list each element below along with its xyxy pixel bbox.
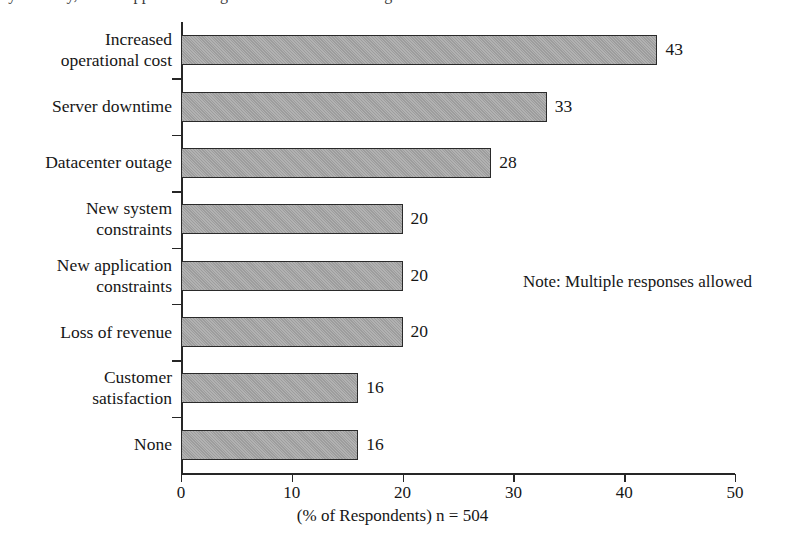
bar-chart: by industry, what happened during the la… (0, 0, 785, 535)
bar (181, 261, 403, 291)
y-axis-tick (172, 78, 181, 79)
bar-value-label: 20 (411, 208, 429, 229)
y-axis-line (181, 22, 183, 474)
x-axis-tick-label: 50 (713, 483, 757, 503)
bar-value-label: 20 (411, 265, 429, 286)
x-axis-tick-label: 0 (159, 483, 203, 503)
bar-value-label: 16 (366, 377, 384, 398)
bar-value-label: 28 (499, 152, 517, 173)
category-label: Customer satisfaction (0, 367, 172, 409)
bar (181, 373, 358, 403)
chart-note-annotation: Note: Multiple responses allowed (523, 272, 752, 292)
y-axis-tick (172, 304, 181, 305)
y-axis-tick (172, 417, 181, 418)
bar (181, 148, 491, 178)
category-label: Loss of revenue (0, 322, 172, 343)
x-axis-tick-label: 40 (602, 483, 646, 503)
category-label: New application constraints (0, 255, 172, 297)
x-axis-tick (292, 474, 293, 482)
x-axis-tick-label: 30 (491, 483, 535, 503)
bar (181, 430, 358, 460)
x-axis-line (181, 473, 735, 475)
bar-value-label: 20 (411, 321, 429, 342)
y-axis-tick (172, 135, 181, 136)
x-axis-tick (403, 474, 404, 482)
x-axis-tick (735, 474, 736, 482)
category-label: New system constraints (0, 198, 172, 240)
bar-value-label: 43 (665, 39, 683, 60)
bar (181, 35, 657, 65)
x-axis-tick (513, 474, 514, 482)
category-label: Server downtime (0, 96, 172, 117)
x-axis-tick (181, 474, 182, 482)
category-label: Increased operational cost (0, 29, 172, 71)
x-axis-tick (624, 474, 625, 482)
bar (181, 317, 403, 347)
x-axis-tick-label: 10 (270, 483, 314, 503)
y-axis-tick (172, 191, 181, 192)
bar (181, 92, 547, 122)
category-axis-labels: Increased operational costServer downtim… (0, 0, 172, 535)
category-label: None (0, 434, 172, 455)
plot-area: 433328202020161601020304050Note: Multipl… (181, 0, 735, 535)
bar (181, 204, 403, 234)
y-axis-tick (172, 248, 181, 249)
y-axis-tick (172, 360, 181, 361)
x-axis-caption: (% of Respondents) n = 504 (0, 506, 785, 526)
category-label: Datacenter outage (0, 152, 172, 173)
bar-value-label: 16 (366, 434, 384, 455)
x-axis-tick-label: 20 (381, 483, 425, 503)
bar-value-label: 33 (555, 96, 573, 117)
